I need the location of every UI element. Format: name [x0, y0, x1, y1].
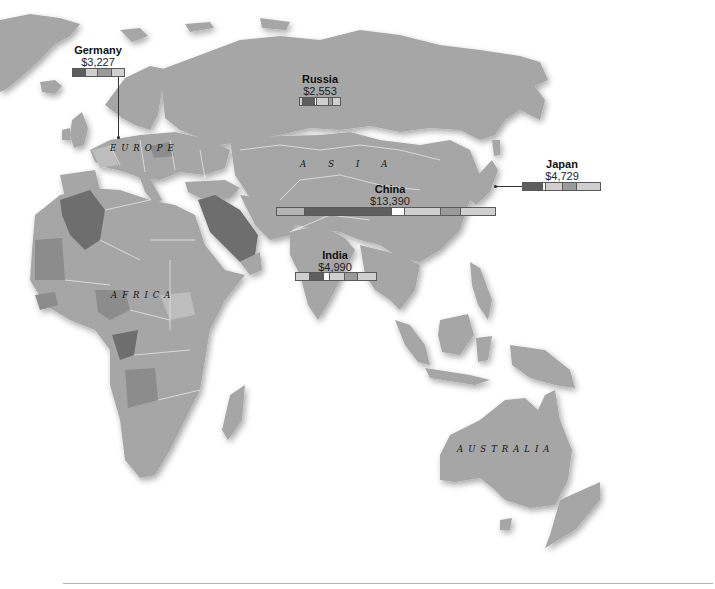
region-label-africa: AFRICA [111, 290, 175, 300]
leader-line-germany [118, 77, 119, 137]
callout-india: India $4,990 [305, 249, 365, 273]
uk-shape [70, 112, 88, 148]
bar-segment [296, 273, 310, 280]
sumatra-shape [395, 320, 430, 365]
country-name: Russia [290, 73, 350, 85]
callout-germany: Germany $3,227 [60, 44, 136, 68]
bar-segment [392, 208, 405, 215]
bar-segment [461, 208, 495, 215]
callout-japan: Japan $4,729 [530, 158, 594, 182]
callout-china: China $13,390 [350, 183, 430, 207]
russia-shape [160, 30, 548, 145]
leader-dot-japan [494, 185, 497, 188]
world-map [0, 0, 715, 589]
bar-segment [563, 183, 577, 190]
stacked-bar-india [295, 272, 377, 281]
country-value: $4,729 [530, 170, 594, 182]
country-value: $3,227 [60, 56, 136, 68]
stacked-bar-japan [522, 182, 601, 191]
bar-segment [577, 183, 600, 190]
bar-segment [523, 183, 543, 190]
new-guinea-shape [510, 345, 575, 388]
mauritania-shape [35, 238, 65, 280]
turkey-shape [185, 180, 240, 198]
bar-segment [98, 69, 111, 76]
stacked-bar-russia [299, 97, 341, 106]
philippines-shape [470, 262, 492, 320]
bar-segment [345, 273, 358, 280]
madagascar-shape [222, 385, 245, 440]
leader-line-japan [496, 186, 522, 187]
country-value: $13,390 [350, 195, 430, 207]
leader-dot-germany [117, 136, 120, 139]
bar-segment [73, 69, 86, 76]
bar-segment [546, 183, 563, 190]
country-name: India [305, 249, 365, 261]
iceland-shape [40, 80, 62, 94]
bar-segment [333, 98, 340, 105]
region-label-australia: AUSTRALIA [457, 444, 554, 454]
country-name: China [350, 183, 430, 195]
region-label-asia: ASIA [300, 159, 409, 169]
country-value: $2,553 [290, 85, 350, 97]
bar-segment [305, 208, 392, 215]
bar-segment [86, 69, 98, 76]
bar-segment [112, 69, 124, 76]
stacked-bar-china [276, 207, 496, 216]
country-name: Germany [60, 44, 136, 56]
bar-segment [317, 98, 330, 105]
borneo-shape [438, 314, 474, 355]
callout-russia: Russia $2,553 [290, 73, 350, 97]
region-label-europe: EUROPE [110, 143, 179, 153]
bar-segment [277, 208, 305, 215]
bar-segment [441, 208, 462, 215]
bar-segment [303, 98, 315, 105]
stacked-bar-germany [72, 68, 125, 77]
bar-segment [310, 273, 325, 280]
bottom-divider [63, 583, 713, 584]
bar-segment [405, 208, 441, 215]
bar-segment [330, 273, 345, 280]
country-name: Japan [530, 158, 594, 170]
bar-segment [358, 273, 377, 280]
